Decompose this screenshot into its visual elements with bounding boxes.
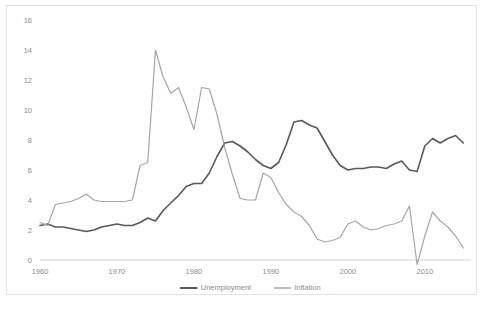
- y-axis-ticks: 0246810121416: [24, 16, 32, 265]
- chart-frame: 0246810121416196019701980199020002010Une…: [6, 5, 477, 295]
- line-chart: 0246810121416196019701980199020002010Une…: [7, 6, 478, 296]
- y-tick-label: 16: [24, 16, 32, 25]
- x-tick-label: 2000: [340, 267, 357, 276]
- y-tick-label: 12: [24, 76, 32, 85]
- y-tick-label: 2: [28, 226, 32, 235]
- x-tick-label: 1980: [186, 267, 203, 276]
- y-tick-label: 6: [28, 166, 32, 175]
- x-tick-label: 1960: [32, 267, 49, 276]
- x-tick-label: 1990: [263, 267, 280, 276]
- series-line-inflation: [40, 50, 463, 265]
- chart-plot-area: 0246810121416196019701980199020002010Une…: [7, 6, 476, 294]
- chart-legend: UnemploymentInflation: [181, 283, 321, 292]
- y-tick-label: 0: [28, 256, 32, 265]
- x-axis-ticks: 196019701980199020002010: [32, 267, 434, 276]
- series-group: [40, 50, 463, 265]
- legend-label-inflation: Inflation: [294, 283, 320, 292]
- x-tick-label: 1970: [109, 267, 126, 276]
- y-tick-label: 8: [28, 136, 32, 145]
- y-tick-label: 14: [24, 46, 32, 55]
- series-line-unemployment: [40, 121, 463, 232]
- legend-label-unemployment: Unemployment: [201, 283, 252, 292]
- y-tick-label: 10: [24, 106, 32, 115]
- x-tick-label: 2010: [416, 267, 433, 276]
- y-tick-label: 4: [28, 196, 32, 205]
